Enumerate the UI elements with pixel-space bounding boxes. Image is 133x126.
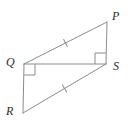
tick-QP-icon	[64, 39, 68, 46]
tick-RS-icon	[62, 85, 66, 92]
right-angle-Q-icon	[24, 64, 35, 75]
tick-marks-group	[62, 39, 67, 92]
vertex-label-P: P	[112, 10, 119, 22]
segment-PS	[106, 22, 107, 64]
vertex-label-R: R	[6, 105, 13, 117]
vertex-label-S: S	[113, 60, 119, 72]
vertex-label-Q: Q	[6, 56, 15, 68]
geometry-figure: PQSR	[0, 0, 133, 126]
segment-QR	[23, 64, 24, 113]
segments-group	[23, 22, 107, 113]
right-angle-S-icon	[95, 53, 106, 64]
